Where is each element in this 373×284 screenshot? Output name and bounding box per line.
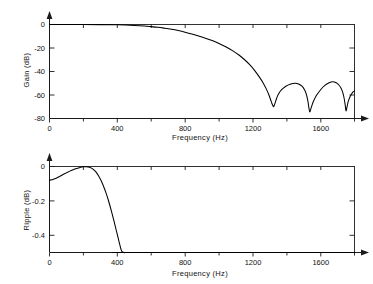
ripple-xtick-1: 400 — [111, 258, 124, 267]
gain-response-curve — [50, 25, 355, 112]
ripple-xtick-2: 800 — [179, 258, 192, 267]
ripple-y-ticklabels: 0 -0.2 -0.4 — [32, 162, 45, 240]
ripple-ytick-1: -0.2 — [32, 197, 45, 206]
ripple-ytick-2: -0.4 — [32, 231, 45, 240]
ripple-chart-svg: Ripple (dB) 0 -0.2 -0.4 — [0, 142, 373, 284]
gain-xtick-3: 1200 — [245, 124, 262, 133]
gain-x-ticklabels: 0 400 800 1200 1600 — [47, 124, 329, 133]
ripple-y-ticks — [50, 167, 355, 236]
gain-xtick-1: 400 — [111, 124, 124, 133]
gain-xtick-4: 1600 — [312, 124, 329, 133]
ripple-xtick-4: 1600 — [312, 258, 329, 267]
gain-ytick-0: 0 — [41, 20, 45, 29]
ripple-x-ticklabels: 0 400 800 1200 1600 — [47, 258, 329, 267]
gain-xtick-2: 800 — [179, 124, 192, 133]
gain-y-ticklabels: 0 -20 -40 -60 -80 — [34, 20, 45, 123]
ripple-xtick-3: 1200 — [245, 258, 262, 267]
gain-chart-svg: Gain (dB) — [0, 0, 373, 142]
ripple-x-axis-title: Frequency (Hz) — [172, 269, 228, 278]
filter-response-figure: Gain (dB) — [0, 0, 373, 284]
gain-y-axis-title: Gain (dB) — [22, 52, 31, 87]
gain-xtick-0: 0 — [47, 124, 51, 133]
gain-x-axis-title: Frequency (Hz) — [172, 133, 228, 142]
ripple-ytick-0: 0 — [41, 162, 45, 171]
gain-ytick-3: -60 — [34, 91, 45, 100]
ripple-x-ticks — [50, 167, 355, 257]
ripple-response-curve — [50, 167, 355, 253]
gain-ytick-1: -20 — [34, 44, 45, 53]
gain-chart-panel: Gain (dB) — [0, 0, 373, 142]
ripple-xtick-0: 0 — [47, 258, 51, 267]
gain-ytick-2: -40 — [34, 67, 45, 76]
gain-ytick-4: -80 — [34, 114, 45, 123]
ripple-chart-panel: Ripple (dB) 0 -0.2 -0.4 — [0, 142, 373, 284]
ripple-y-axis-title: Ripple (dB) — [22, 189, 31, 230]
